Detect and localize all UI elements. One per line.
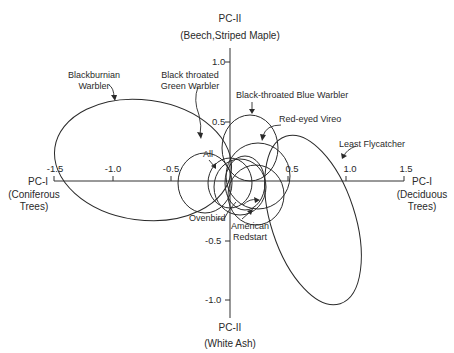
y-tick-label: 0.5 [212, 116, 225, 127]
x-tick-label: 1.0 [337, 163, 363, 174]
label-black-throated-green-warbler: Black throated Green Warbler [154, 70, 226, 92]
x-tick-label: -1.5 [40, 163, 70, 174]
label-line: Green Warbler [154, 81, 226, 92]
y-axis-bottom-title: PC-II [210, 321, 250, 334]
y-tick-label: -0.5 [205, 235, 221, 246]
x-tick-label: 1.5 [393, 163, 419, 174]
ordination-diagram [0, 0, 454, 353]
label-line: American [228, 221, 272, 232]
y-tick-label: 1.0 [212, 56, 225, 67]
ellipse-least-flycatcher [246, 123, 380, 316]
x-tick-label: -0.5 [156, 163, 186, 174]
label-ovenbird: Ovenbird [189, 213, 226, 224]
x-tick-label: -1.0 [98, 163, 128, 174]
y-axis-top-title: PC-II [210, 12, 250, 25]
label-line: Warbler [64, 81, 124, 92]
label-least-flycatcher: Least Flycatcher [339, 139, 405, 150]
x-axis-left-title: PC-I [20, 175, 56, 188]
label-all: All [203, 149, 213, 160]
label-line: Black throated [154, 70, 226, 81]
y-axis-top-subtitle: (Beech,Striped Maple) [170, 29, 290, 42]
label-american-redstart: American Redstart [228, 221, 272, 243]
ellipse-black-throated-green-warbler [178, 153, 232, 213]
pointer-american-redstart [242, 209, 253, 219]
pointer-red-eyed-vireo [260, 125, 281, 141]
y-axis-bottom-subtitle: (White Ash) [190, 337, 270, 350]
label-line: Redstart [228, 232, 272, 243]
label-red-eyed-vireo: Red-eyed Vireo [279, 114, 341, 125]
x-tick-label: 0.5 [279, 163, 305, 174]
pointer-black-throated-green [196, 87, 203, 139]
x-axis-right-subtitle-2: Trees) [390, 200, 454, 213]
y-tick-label: -1.0 [205, 294, 221, 305]
label-black-throated-blue-warbler: Black-throated Blue Warbler [236, 90, 348, 101]
x-axis-right-title: PC-I [404, 175, 440, 188]
ellipse-ovenbird [214, 159, 266, 215]
ellipse-american-redstart [228, 165, 284, 225]
label-line: Blackburnian [64, 70, 124, 81]
x-axis-left-subtitle-2: Trees) [4, 200, 64, 213]
pointer-black-throated-blue [249, 102, 255, 114]
label-blackburnian-warbler: Blackburnian Warbler [64, 70, 124, 92]
ellipse-blackburnian-warbler [47, 88, 240, 232]
